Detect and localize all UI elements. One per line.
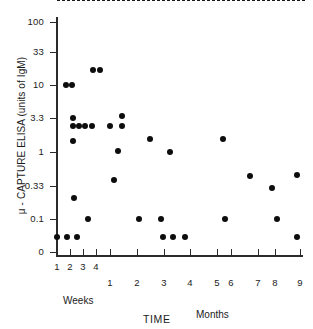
x-axis-line bbox=[56, 255, 303, 257]
x-tick-label: 6 bbox=[228, 278, 233, 288]
y-tick-label: 3.3 bbox=[0, 113, 44, 123]
y-tick-mark bbox=[50, 22, 57, 23]
x-tick-mark bbox=[83, 249, 84, 256]
data-point bbox=[220, 136, 226, 142]
data-point bbox=[119, 123, 125, 129]
cutoff-threshold-line bbox=[57, 0, 305, 1]
x-tick-mark bbox=[258, 249, 259, 256]
y-tick-label: 33 bbox=[0, 47, 44, 57]
x-tick-label: 2 bbox=[134, 278, 139, 288]
data-point bbox=[70, 138, 76, 144]
scatter-chart: μ - CAPTURE ELISA (units of IgM) 1003310… bbox=[0, 0, 313, 329]
x-tick-label: 7 bbox=[255, 278, 260, 288]
data-point bbox=[54, 234, 60, 240]
data-point bbox=[294, 234, 300, 240]
data-point bbox=[167, 149, 173, 155]
x-tick-mark bbox=[96, 249, 97, 256]
data-point bbox=[115, 148, 121, 154]
x-tick-mark bbox=[137, 249, 138, 256]
data-point bbox=[90, 67, 96, 73]
x-tick-mark bbox=[190, 249, 191, 256]
x-tick-label: 8 bbox=[272, 278, 277, 288]
x-tick-mark bbox=[300, 249, 301, 256]
y-tick-label: 0.1 bbox=[0, 214, 44, 224]
x-tick-mark bbox=[231, 249, 232, 256]
data-point bbox=[71, 195, 77, 201]
data-point bbox=[69, 82, 75, 88]
data-point bbox=[182, 234, 188, 240]
data-point bbox=[89, 123, 95, 129]
y-tick-label: 10 bbox=[0, 80, 44, 90]
x-tick-label: 4 bbox=[187, 278, 192, 288]
x-tick-label: 5 bbox=[214, 278, 219, 288]
data-point bbox=[147, 136, 153, 142]
data-point bbox=[136, 216, 142, 222]
x-tick-mark bbox=[57, 249, 58, 256]
y-tick-label: 1 bbox=[0, 147, 44, 157]
data-point bbox=[70, 115, 76, 121]
x-tick-label: 2 bbox=[67, 262, 72, 272]
y-tick-mark bbox=[50, 152, 57, 153]
x-tick-mark bbox=[217, 249, 218, 256]
y-tick-label: 0.33 bbox=[0, 181, 44, 191]
data-point bbox=[158, 216, 164, 222]
data-point bbox=[64, 234, 70, 240]
y-tick-label: 0 bbox=[0, 247, 44, 257]
x-tick-label: 9 bbox=[297, 278, 302, 288]
y-tick-mark bbox=[50, 52, 57, 53]
data-point bbox=[170, 234, 176, 240]
x-tick-mark bbox=[110, 249, 111, 256]
data-point bbox=[160, 234, 166, 240]
data-point bbox=[269, 185, 275, 191]
y-tick-mark bbox=[50, 219, 57, 220]
weeks-group-label: Weeks bbox=[63, 295, 93, 306]
x-tick-label: 1 bbox=[54, 262, 59, 272]
data-point bbox=[247, 173, 253, 179]
y-tick-label: 100 bbox=[0, 17, 44, 27]
y-tick-mark bbox=[50, 85, 57, 86]
data-point bbox=[107, 123, 113, 129]
x-tick-label: 1 bbox=[107, 278, 112, 288]
y-axis-title: μ - CAPTURE ELISA (units of IgM) bbox=[16, 31, 27, 241]
x-tick-mark bbox=[275, 249, 276, 256]
data-point bbox=[97, 67, 103, 73]
y-tick-mark bbox=[50, 252, 57, 253]
data-point bbox=[222, 216, 228, 222]
x-tick-label: 4 bbox=[93, 262, 98, 272]
data-point bbox=[85, 216, 91, 222]
y-tick-mark bbox=[50, 118, 57, 119]
x-tick-mark bbox=[70, 249, 71, 256]
data-point bbox=[294, 172, 300, 178]
y-tick-mark bbox=[50, 186, 57, 187]
data-point bbox=[111, 177, 117, 183]
x-tick-mark bbox=[164, 249, 165, 256]
months-group-label: Months bbox=[196, 309, 229, 320]
x-tick-label: 3 bbox=[161, 278, 166, 288]
data-point bbox=[274, 216, 280, 222]
data-point bbox=[82, 123, 88, 129]
x-axis-title: TIME bbox=[143, 313, 170, 325]
data-point bbox=[119, 113, 125, 119]
x-tick-label: 3 bbox=[80, 262, 85, 272]
data-point bbox=[74, 234, 80, 240]
